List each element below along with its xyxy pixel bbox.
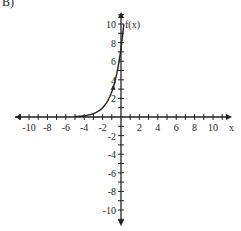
function-curve [75, 24, 124, 116]
x-tick-label: -6 [62, 122, 70, 133]
x-axis-right-arrow-icon [226, 114, 232, 120]
x-tick-label: 10 [208, 122, 218, 133]
x-tick-label: 8 [192, 122, 197, 133]
y-tick-label: -8 [108, 186, 116, 197]
y-axis-label: f(x) [125, 19, 140, 31]
coordinate-plane: -10-8-6-4-2246810-10-8-6-4-2246810xf(x) [0, 0, 241, 231]
y-tick-label: -10 [103, 205, 116, 216]
y-tick-label: -4 [108, 149, 116, 160]
x-tick-label: -2 [98, 122, 106, 133]
y-tick-label: 8 [111, 38, 116, 49]
y-tick-label: 10 [106, 19, 116, 30]
y-tick-label: 2 [111, 93, 116, 104]
x-tick-label: 6 [174, 122, 179, 133]
y-tick-label: -2 [108, 131, 116, 142]
x-axis-label: x [229, 122, 234, 133]
x-tick-label: -4 [80, 122, 88, 133]
y-axis-down-arrow-icon [118, 220, 124, 226]
x-tick-label: -10 [22, 122, 35, 133]
x-tick-label: 4 [155, 122, 160, 133]
y-tick-label: -6 [108, 168, 116, 179]
x-tick-label: 2 [137, 122, 142, 133]
x-tick-label: -8 [43, 122, 51, 133]
y-tick-label: 6 [111, 56, 116, 67]
